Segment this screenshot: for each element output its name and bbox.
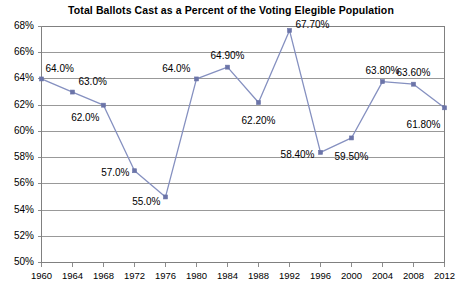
data-point-label: 55.0% <box>132 196 160 207</box>
data-point-label: 57.0% <box>101 167 129 178</box>
data-point-label: 63.80% <box>366 65 400 76</box>
data-point-label: 63.0% <box>79 76 107 87</box>
data-point-label: 64.90% <box>211 50 245 61</box>
y-axis-tick-label: 52% <box>0 230 34 241</box>
x-axis-tick-label: 2004 <box>366 270 400 281</box>
y-axis-tick-label: 68% <box>0 20 34 31</box>
y-axis-tick-label: 50% <box>0 256 34 267</box>
x-axis-tick-label: 1988 <box>242 270 276 281</box>
y-axis-tick-label: 64% <box>0 72 34 83</box>
x-axis-tick-label: 1996 <box>304 270 338 281</box>
y-axis-tick-label: 60% <box>0 125 34 136</box>
x-axis-tick-label: 1968 <box>87 270 121 281</box>
chart-container: Total Ballots Cast as a Percent of the V… <box>0 0 462 293</box>
tick-marks <box>38 27 445 267</box>
line-chart-plot <box>0 0 462 293</box>
x-axis-tick-label: 1980 <box>180 270 214 281</box>
data-point-label: 64.0% <box>46 63 74 74</box>
data-point-label: 59.50% <box>335 151 369 162</box>
y-axis-tick-label: 58% <box>0 151 34 162</box>
data-point-label: 64.0% <box>162 63 190 74</box>
y-axis-tick-label: 56% <box>0 177 34 188</box>
x-axis-tick-label: 2008 <box>397 270 431 281</box>
x-axis-tick-label: 2012 <box>428 270 462 281</box>
x-axis-tick-label: 1976 <box>149 270 183 281</box>
data-point-label: 61.80% <box>407 119 441 130</box>
x-axis-tick-label: 1992 <box>273 270 307 281</box>
axis-lines <box>42 27 445 263</box>
data-point-label: 62.20% <box>242 115 276 126</box>
x-axis-tick-label: 1984 <box>211 270 245 281</box>
x-axis-tick-label: 1972 <box>118 270 152 281</box>
y-axis-tick-label: 62% <box>0 99 34 110</box>
y-axis-tick-label: 54% <box>0 204 34 215</box>
data-point-label: 63.60% <box>397 67 431 78</box>
data-point-label: 67.70% <box>296 19 330 30</box>
x-axis-tick-label: 1960 <box>25 270 59 281</box>
data-point-label: 58.40% <box>281 149 315 160</box>
y-axis-tick-label: 66% <box>0 46 34 57</box>
x-axis-tick-label: 2000 <box>335 270 369 281</box>
x-axis-tick-label: 1964 <box>56 270 90 281</box>
data-point-label: 62.0% <box>71 112 99 123</box>
